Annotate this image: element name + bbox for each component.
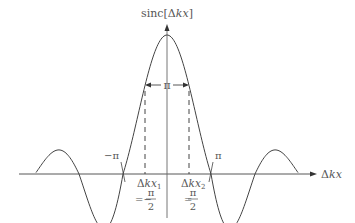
svg-text:π: π — [148, 187, 155, 198]
svg-text:π: π — [190, 187, 197, 198]
neg-pi-tick — [121, 162, 125, 182]
sinc-diagram: π sinc[Δkx] Δkx −π π Δkx1 =− π 2 Δkx2 = … — [0, 0, 355, 223]
svg-text:2: 2 — [148, 201, 154, 212]
y-axis-arrow-icon — [165, 24, 170, 31]
y-axis-label: sinc[Δkx] — [141, 7, 193, 20]
dk2-label: Δkx2 = π 2 — [181, 177, 205, 212]
pos-pi-tick — [209, 162, 213, 182]
x-axis-label: Δkx — [321, 168, 343, 181]
neg-pi-label: −π — [104, 150, 119, 161]
width-label: π — [163, 79, 170, 92]
pos-pi-label: π — [215, 150, 222, 161]
svg-text:2: 2 — [190, 201, 196, 212]
dk1-label: Δkx1 =− π 2 — [135, 177, 161, 212]
x-axis-arrow-icon — [310, 172, 317, 177]
